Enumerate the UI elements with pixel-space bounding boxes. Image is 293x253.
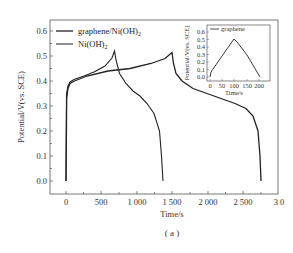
inset-frame: [207, 25, 270, 81]
legend-label-graphene-nioh2: graphene/Ni(OH)2: [78, 26, 141, 37]
x-axis-ticks: [66, 191, 261, 194]
inset-y-tick-label: 0.1: [197, 66, 205, 73]
x-axis-tick-labels: 0 500 1 000 1 500 2 000 2 500 3 0: [64, 197, 284, 207]
inset-legend-label: graphene: [221, 25, 245, 32]
inset-y-axis-title: Potential/V(vs. SCE): [183, 26, 191, 81]
y-axis-title: Potential/V(vs. SCE): [16, 71, 26, 143]
y-tick-label: 0.5: [36, 51, 47, 61]
inset-x-axis-title: Time/s: [225, 89, 243, 96]
x-tick-label: 2 000: [198, 197, 217, 207]
y-axis-tick-labels: 0.0 0.1 0.2 0.3 0.4 0.5 0.6: [36, 26, 47, 186]
inset-y-tick-label: 0.2: [197, 58, 205, 65]
legend: graphene/Ni(OH)2 Ni(OH)2: [56, 26, 141, 50]
y-tick-label: 0.4: [36, 76, 47, 86]
x-tick-label: 2 500: [233, 197, 252, 207]
inset-y-tick-label: 0.3: [197, 51, 205, 58]
inset-x-tick-label: 150: [242, 82, 252, 89]
x-tick-label: 1 500: [162, 197, 181, 207]
inset-x-tick-label: 50: [219, 82, 226, 89]
inset-x-tick-label: 200: [254, 82, 264, 89]
x-tick-label: 3 0: [274, 197, 285, 207]
x-tick-label: 500: [95, 197, 108, 207]
inset-chart: 0.0 0.1 0.2 0.3 0.4 0.5 0.6 Potential/V(…: [183, 25, 270, 96]
x-axis-title: Time/s: [160, 209, 183, 219]
inset-x-tick-label: 0: [208, 82, 211, 89]
y-tick-label: 0.3: [36, 101, 47, 111]
inset-y-tick-label: 0.6: [197, 28, 206, 35]
y-tick-label: 0.2: [36, 126, 47, 136]
x-tick-label: 1 000: [127, 197, 146, 207]
x-tick-label: 0: [64, 197, 68, 207]
inset-y-tick-label: 0.4: [197, 43, 206, 50]
y-axis-ticks: [50, 31, 53, 181]
chart-figure: 0.0 0.1 0.2 0.3 0.4 0.5 0.6 Potential/V(…: [0, 0, 293, 253]
y-tick-label: 0.6: [36, 26, 47, 36]
inset-y-tick-label: 0.5: [197, 36, 205, 43]
figure-caption: ( a ): [165, 228, 180, 238]
inset-x-tick-label: 100: [229, 82, 239, 89]
legend-label-nioh2: Ni(OH)2: [78, 39, 107, 50]
inset-y-tick-label: 0.0: [197, 73, 205, 80]
y-tick-label: 0.0: [36, 176, 47, 186]
y-tick-label: 0.1: [36, 151, 47, 161]
